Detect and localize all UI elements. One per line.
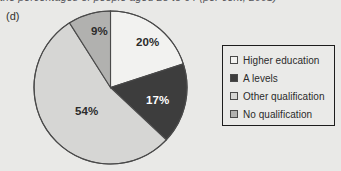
pie-slice-value-label: 17% <box>146 94 169 106</box>
legend-swatch-no-qualification <box>230 110 238 118</box>
legend-item[interactable]: A levels <box>230 69 334 87</box>
legend-label: Other qualification <box>243 91 325 102</box>
legend-box: Higher education A levels Other qualific… <box>222 45 335 126</box>
pie-chart: 20%17%54%9% <box>33 10 188 165</box>
legend-item[interactable]: Other qualification <box>230 87 334 105</box>
legend-item[interactable]: No qualification <box>230 105 334 123</box>
legend-item[interactable]: Higher education <box>230 51 334 69</box>
part-label: (d) <box>6 10 19 22</box>
pie-slice-value-label: 9% <box>91 25 108 37</box>
legend-swatch-a-levels <box>230 74 238 82</box>
pie-chart-svg: 20%17%54%9% <box>33 10 188 165</box>
legend-label: A levels <box>243 73 278 84</box>
legend-label: No qualification <box>243 109 312 120</box>
pie-slices <box>34 11 187 164</box>
legend-swatch-other-qualification <box>230 92 238 100</box>
pie-slice-value-label: 20% <box>136 36 159 48</box>
legend-swatch-higher-education <box>230 56 238 64</box>
figure-panel: the percentages of people aged 25 to 64 … <box>0 0 341 171</box>
legend-label: Higher education <box>243 55 319 66</box>
pie-slice-value-label: 54% <box>75 105 98 117</box>
clipped-caption-line: the percentages of people aged 25 to 64 … <box>0 0 341 3</box>
